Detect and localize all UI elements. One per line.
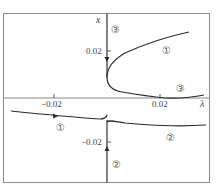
branch-label-lower-right: ② bbox=[166, 132, 175, 143]
y-axis-label: x bbox=[95, 14, 101, 25]
y-tick-label-neg: −0.02 bbox=[81, 137, 102, 147]
branch-label-bottom-axis: ② bbox=[112, 159, 121, 170]
branch-label-top-axis: ③ bbox=[111, 24, 120, 35]
branch-label-lower-left: ① bbox=[56, 122, 65, 133]
x-tick-label-pos: 0.02 bbox=[152, 99, 168, 109]
x-axis-label: λ bbox=[199, 98, 205, 109]
y-tick-label-pos: 0.02 bbox=[86, 46, 102, 56]
arrow-right-icon bbox=[53, 114, 58, 119]
branch-label-upper-low: ③ bbox=[176, 83, 185, 94]
curve-upper-branch-3 bbox=[107, 77, 204, 98]
curve-lower-right-branch-2 bbox=[107, 121, 206, 126]
x-tick-label-neg: −0.02 bbox=[41, 99, 62, 109]
arrow-up-icon bbox=[105, 146, 110, 151]
bifurcation-chart: −0.02 0.02 0.02 −0.02 x λ ③ ① ③ ① ② ② bbox=[0, 0, 216, 191]
curve-upper-branch-1 bbox=[107, 32, 189, 77]
branch-label-upper: ① bbox=[162, 45, 171, 56]
arrow-down-icon bbox=[105, 57, 110, 62]
curve-lower-left-branch-1 bbox=[11, 111, 107, 119]
